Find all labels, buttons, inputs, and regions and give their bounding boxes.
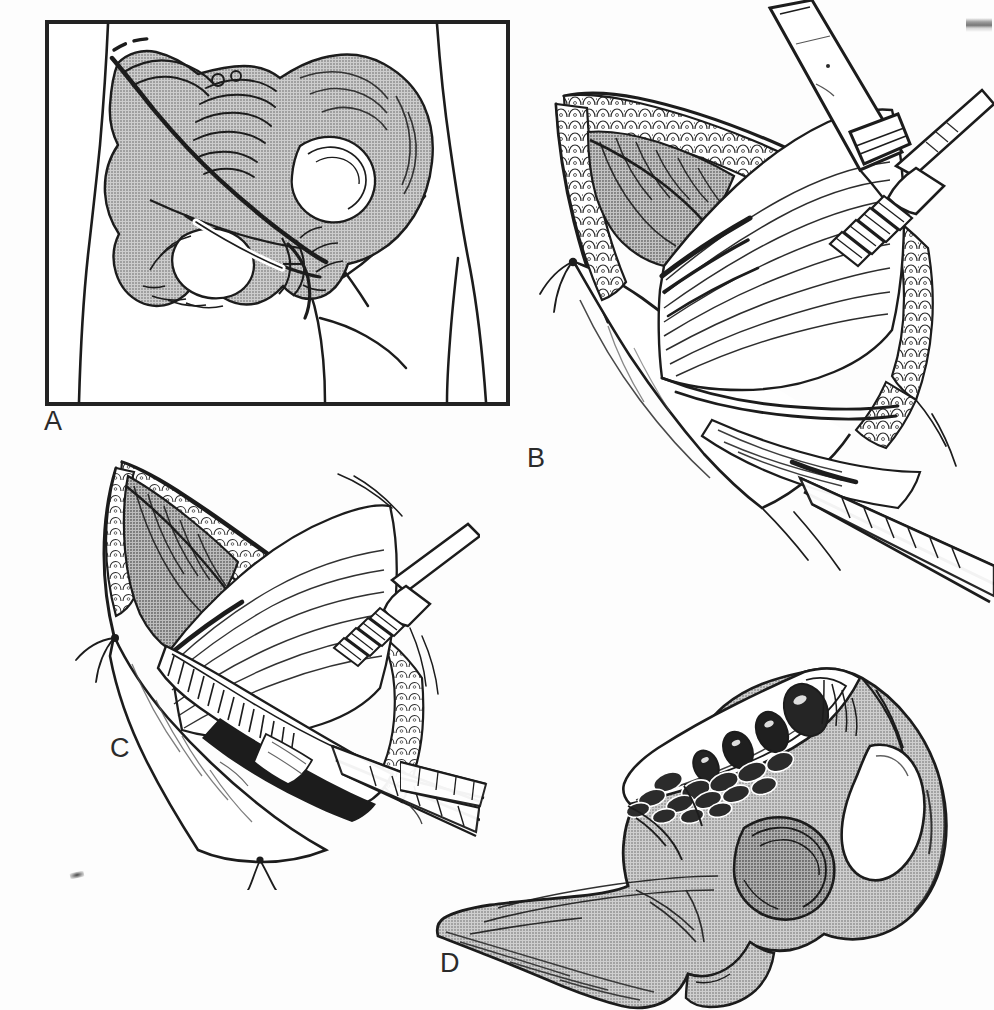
panel-a: A <box>0 0 520 410</box>
forceps-tip[interactable] <box>400 762 486 824</box>
panel-b-label: B <box>527 445 546 472</box>
panel-d: D <box>400 650 994 1010</box>
panel-d-artwork <box>400 650 994 1010</box>
figure-root: A <box>0 0 994 1010</box>
panel-b-artwork <box>512 0 994 630</box>
panel-a-label: A <box>44 408 63 435</box>
panel-a-artwork <box>0 0 520 410</box>
panel-d-label: D <box>440 950 460 977</box>
panel-c-label: C <box>110 735 130 762</box>
acetabulum <box>292 137 375 223</box>
obturator-foramen <box>172 229 254 299</box>
panel-b: B <box>512 0 994 630</box>
retention-suture <box>540 258 577 312</box>
acetabulum <box>734 817 834 919</box>
